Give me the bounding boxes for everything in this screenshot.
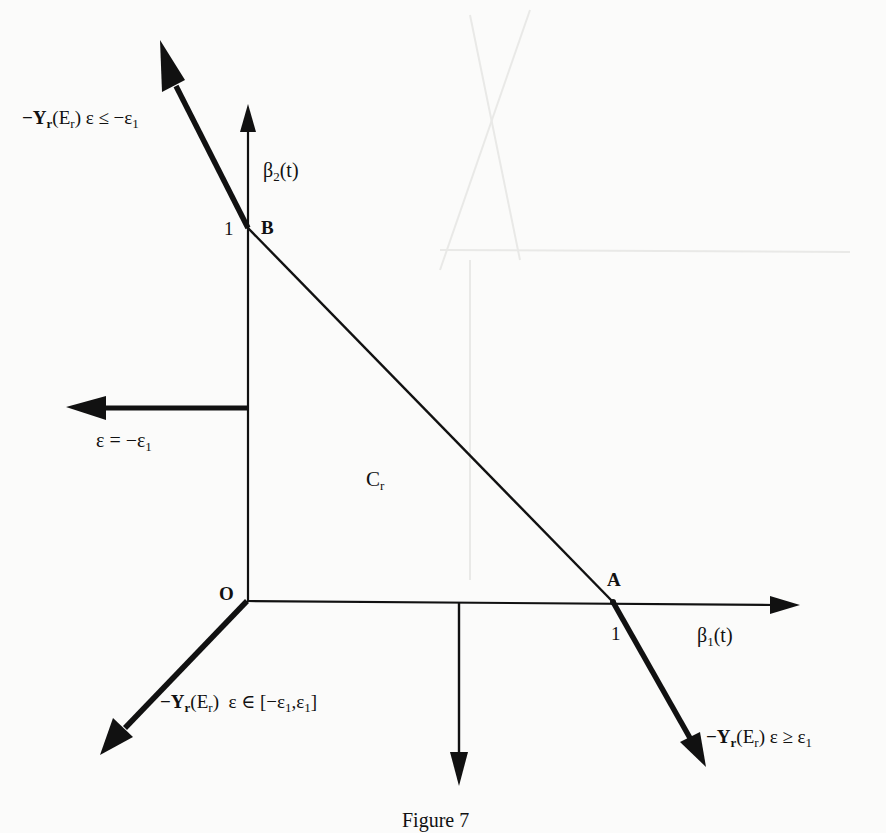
y-axis — [240, 104, 256, 600]
arrow-down — [450, 603, 468, 786]
label-top-left-arrow: −Yr(Er) ε ≤ −ε1 — [22, 108, 139, 130]
arrow-left — [66, 396, 249, 420]
label-left-arrow: ε = −ε1 — [96, 430, 152, 453]
x-tick-one: 1 — [611, 624, 621, 643]
point-B-label: B — [261, 218, 274, 237]
label-bottom-left-arrow: −Yr(Er) ε ∈ [−ε1,ε1] — [160, 692, 317, 714]
x-axis-label: β1(t) — [697, 625, 733, 648]
y-axis-arrowhead-icon — [240, 104, 256, 132]
origin-label: O — [219, 584, 234, 603]
arrowhead-left-icon — [66, 396, 106, 420]
figure-caption: Figure 7 — [402, 810, 469, 830]
x-axis — [247, 596, 800, 614]
y-axis-label: β2(t) — [263, 160, 299, 183]
show-through-background — [440, 10, 850, 580]
boundary-line-AB — [248, 228, 613, 602]
y-tick-one: 1 — [224, 219, 234, 238]
arrowhead-top-left-icon — [160, 40, 185, 92]
arrow-bottom-left — [100, 601, 247, 755]
point-A-dot — [610, 599, 616, 605]
point-A-label: A — [607, 570, 621, 589]
arrowhead-down-icon — [450, 752, 468, 786]
arrow-top-left — [160, 40, 248, 228]
region-label-Cr: Cr — [366, 469, 384, 492]
x-axis-arrowhead-icon — [770, 596, 800, 614]
arrow-bottom-right — [613, 602, 706, 767]
label-bottom-right-arrow: −Yr(Er) ε ≥ ε1 — [706, 727, 812, 749]
arrowhead-bottom-right-icon — [680, 732, 706, 767]
